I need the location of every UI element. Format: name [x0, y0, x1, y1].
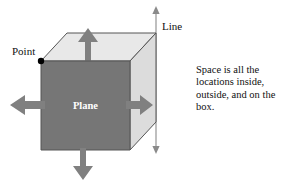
line-arrowhead-up: [152, 6, 159, 14]
point-label: Point: [12, 45, 35, 57]
space-caption: Space is all the locations inside, outsi…: [196, 64, 282, 114]
line-label: Line: [162, 20, 182, 32]
figure-screenshot: Point Line Plane Space is all the locati…: [0, 0, 284, 187]
point-dot: [38, 58, 44, 64]
plane-label: Plane: [73, 100, 98, 111]
down-arrow: [73, 148, 93, 180]
left-arrow-shape: [10, 95, 45, 115]
left-arrow: [10, 95, 45, 115]
down-arrow-shape: [73, 148, 93, 180]
line-arrowhead-down: [152, 146, 159, 154]
